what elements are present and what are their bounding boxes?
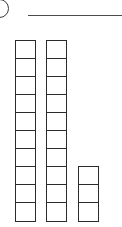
unit-cube (15, 202, 36, 222)
unit-cube (15, 148, 36, 168)
unit-cube (78, 202, 99, 222)
unit-cube (46, 58, 67, 78)
problem-number-badge (0, 0, 9, 18)
unit-cube (15, 58, 36, 78)
unit-cube (46, 148, 67, 168)
unit-cube (15, 40, 36, 60)
unit-cube (15, 76, 36, 96)
unit-cube (46, 76, 67, 96)
unit-cube (15, 94, 36, 114)
ten-rod-1 (15, 40, 36, 222)
unit-cube (46, 94, 67, 114)
ones-stack (78, 166, 99, 222)
unit-cube (46, 130, 67, 150)
unit-cube (15, 130, 36, 150)
answer-line[interactable] (28, 15, 122, 16)
unit-cube (15, 112, 36, 132)
ten-rod-2 (46, 40, 67, 222)
unit-cube (15, 166, 36, 186)
unit-cube (46, 166, 67, 186)
unit-cube (15, 184, 36, 204)
unit-cube (46, 112, 67, 132)
unit-cube (78, 184, 99, 204)
unit-cube (46, 184, 67, 204)
unit-cube (46, 40, 67, 60)
unit-cube (78, 166, 99, 186)
unit-cube (46, 202, 67, 222)
worksheet-page (0, 0, 122, 227)
